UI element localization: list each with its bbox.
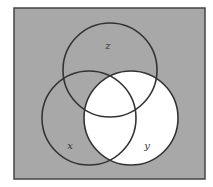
set-z-label: z [104, 40, 111, 51]
venn-diagram: z x y [0, 0, 213, 187]
set-x-label: x [67, 140, 73, 151]
set-y-label: y [143, 140, 150, 151]
